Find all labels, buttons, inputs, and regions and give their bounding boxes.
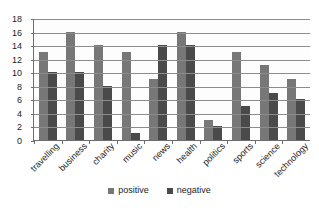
bar-group: [34, 19, 62, 140]
y-axis-tick-label: 10: [0, 69, 22, 78]
x-axis-labels: travellingbusinesscharitymusicnewshealth…: [33, 141, 310, 189]
legend-item-negative: negative: [167, 186, 211, 195]
gridline: [34, 60, 310, 61]
bar-positive: [260, 65, 269, 140]
x-axis-category-label: music: [120, 141, 144, 165]
bar-group: [144, 19, 172, 140]
x-axis-category-label: health: [175, 141, 199, 165]
x-axis-category-label: news: [150, 141, 172, 163]
y-axis-tick-label: 0: [0, 137, 22, 146]
y-axis-tickmark: [31, 19, 34, 20]
y-axis-tick-label: 14: [0, 42, 22, 51]
chart-legend: positive negative: [0, 186, 319, 195]
y-axis-tick-label: 8: [0, 82, 22, 91]
y-axis-tick-label: 2: [0, 123, 22, 132]
x-axis-category-label: business: [56, 141, 88, 173]
y-axis-tick-label: 4: [0, 109, 22, 118]
legend-label-positive: positive: [118, 186, 149, 195]
bar-positive: [287, 79, 296, 140]
bar-negative: [75, 72, 84, 140]
gridline: [34, 19, 310, 20]
legend-item-positive: positive: [108, 186, 149, 195]
gridline: [34, 73, 310, 74]
bar-group: [282, 19, 310, 140]
bar-group: [172, 19, 200, 140]
y-axis-tickmark: [31, 60, 34, 61]
bars-layer: [34, 19, 310, 140]
bar-negative: [241, 106, 250, 140]
gridline: [34, 114, 310, 115]
gridline: [34, 87, 310, 88]
y-axis-tick-label: 12: [0, 55, 22, 64]
x-axis-category-label: charity: [91, 141, 117, 167]
bar-negative: [213, 126, 222, 140]
bar-group: [62, 19, 90, 140]
y-axis-tick-label: 6: [0, 96, 22, 105]
bar-group: [117, 19, 145, 140]
bar-group: [255, 19, 283, 140]
x-axis-category-label: travelling: [28, 141, 61, 174]
bar-negative: [131, 133, 140, 140]
y-axis-tick-label: 18: [0, 15, 22, 24]
x-axis-category-label: politics: [201, 141, 228, 168]
bar-negative: [296, 99, 305, 140]
bar-positive: [204, 120, 213, 140]
y-axis-tickmark: [31, 87, 34, 88]
bar-group: [200, 19, 228, 140]
y-axis-tickmark: [31, 127, 34, 128]
y-axis-tick-label: 16: [0, 28, 22, 37]
bar-chart: 024681012141618 travellingbusinesscharit…: [0, 0, 319, 208]
gridline: [34, 46, 310, 47]
y-axis-tickmark: [31, 100, 34, 101]
bar-positive: [149, 79, 158, 140]
y-axis-tickmark: [31, 46, 34, 47]
x-axis-category-label: sports: [230, 141, 254, 165]
y-axis-tickmark: [31, 73, 34, 74]
gridline: [34, 33, 310, 34]
bar-negative: [48, 72, 57, 140]
legend-swatch-positive-icon: [108, 188, 114, 194]
y-axis-tickmark: [31, 114, 34, 115]
plot-area: 024681012141618: [33, 19, 310, 141]
gridline: [34, 100, 310, 101]
y-axis-tickmark: [31, 33, 34, 34]
legend-swatch-negative-icon: [167, 188, 173, 194]
gridline: [34, 127, 310, 128]
bar-group: [89, 19, 117, 140]
bar-group: [227, 19, 255, 140]
legend-label-negative: negative: [177, 186, 211, 195]
